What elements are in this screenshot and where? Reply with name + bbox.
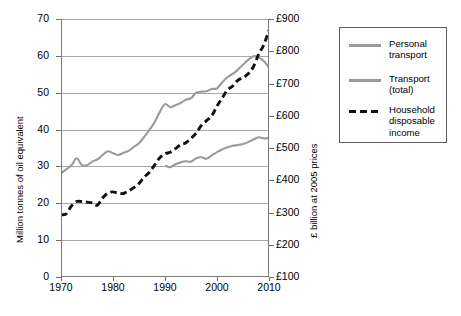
- y-tick-label-left: 30: [9, 159, 49, 171]
- y-tick-label-left: 20: [9, 196, 49, 208]
- y-tick-label-right: £700: [276, 77, 324, 89]
- y-tick-label-right: £200: [276, 238, 324, 250]
- legend-solid-swatch: [348, 73, 382, 87]
- y-tick-mark-right: [269, 180, 274, 181]
- x-tick-label: 1990: [142, 281, 188, 293]
- y-tick-label-right: £600: [276, 109, 324, 121]
- plot-frame: [61, 19, 269, 277]
- legend-label: Personaltransport: [389, 38, 427, 61]
- y-tick-label-left: 60: [9, 49, 49, 61]
- y-tick-label-right: £400: [276, 173, 324, 185]
- y-axis-right-title: £ billion at 2005 prices: [308, 143, 319, 238]
- x-tick-label: 2000: [194, 281, 240, 293]
- y-tick-label-right: £300: [276, 206, 324, 218]
- legend-solid-swatch: [348, 38, 382, 52]
- y-tick-label-left: 40: [9, 123, 49, 135]
- y-tick-mark-right: [269, 148, 274, 149]
- y-tick-label-right: £500: [276, 141, 324, 153]
- y-tick-mark-right: [269, 84, 274, 85]
- y-tick-label-left: 10: [9, 233, 49, 245]
- legend-item: Householddisposableincome: [348, 104, 435, 138]
- legend-item: Transport(total): [348, 73, 430, 96]
- legend-item: Personaltransport: [348, 38, 427, 61]
- chart-figure: Million tonnes of oil equivalent £ billi…: [0, 0, 461, 316]
- y-tick-mark-right: [269, 245, 274, 246]
- y-tick-mark-right: [269, 19, 274, 20]
- y-tick-label-right: £800: [276, 44, 324, 56]
- x-tick-label: 1970: [38, 281, 84, 293]
- y-tick-mark-right: [269, 116, 274, 117]
- legend-dashed-swatch: [348, 104, 382, 118]
- y-axis-left-title: Million tonnes of oil equivalent: [14, 116, 25, 243]
- y-tick-label-left: 70: [9, 12, 49, 24]
- legend-label: Transport(total): [389, 73, 430, 96]
- y-tick-mark-right: [269, 51, 274, 52]
- x-tick-label: 1980: [90, 281, 136, 293]
- x-tick-label: 2010: [246, 281, 292, 293]
- y-tick-label-right: £900: [276, 12, 324, 24]
- y-tick-mark-right: [269, 213, 274, 214]
- legend-label: Householddisposableincome: [389, 104, 435, 138]
- plot-area: [61, 19, 269, 277]
- legend-box: PersonaltransportTransport(total)Househo…: [339, 27, 447, 143]
- y-tick-label-left: 50: [9, 86, 49, 98]
